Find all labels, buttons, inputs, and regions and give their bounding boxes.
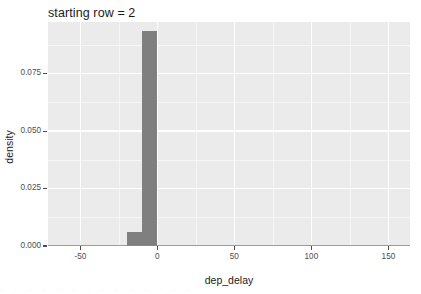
gridline-minor-vertical <box>119 22 120 246</box>
x-tick-mark <box>157 246 158 250</box>
y-tick-label: 0.050 <box>1 126 41 135</box>
histogram-bar <box>127 232 142 246</box>
chart-title: starting row = 2 <box>48 6 135 20</box>
gridline-major-horizontal <box>48 188 410 190</box>
gridline-major-horizontal <box>48 130 410 132</box>
y-tick-mark <box>43 73 47 74</box>
gridline-minor-vertical <box>350 22 351 246</box>
gridline-major-vertical <box>311 22 313 246</box>
gridline-minor-horizontal <box>48 45 410 46</box>
y-axis-title-label: density <box>3 130 15 163</box>
y-tick-mark <box>43 188 47 189</box>
gridline-minor-vertical <box>273 22 274 246</box>
x-tick-label: 50 <box>214 252 254 261</box>
gridline-major-vertical <box>388 22 390 246</box>
x-tick-label: 100 <box>291 252 331 261</box>
plot-panel <box>48 22 410 246</box>
y-tick-label: 0.075 <box>1 68 41 77</box>
x-tick-label: -50 <box>60 252 100 261</box>
gridline-major-vertical <box>80 22 82 246</box>
y-tick-label: 0.025 <box>1 183 41 192</box>
x-tick-mark <box>388 246 389 250</box>
x-tick-mark <box>80 246 81 250</box>
x-tick-mark <box>311 246 312 250</box>
y-tick-mark <box>43 131 47 132</box>
gridline-major-horizontal <box>48 73 410 75</box>
gridline-major-vertical <box>234 22 236 246</box>
y-axis-title: density <box>2 0 16 294</box>
gridline-minor-horizontal <box>48 160 410 161</box>
x-tick-label: 150 <box>368 252 408 261</box>
axis-baseline <box>48 245 410 246</box>
y-tick-mark <box>43 245 47 246</box>
histogram-bar <box>142 31 157 246</box>
chart-container: starting row = 2 density 0.0000.0250.050… <box>0 0 421 294</box>
gridline-minor-horizontal <box>48 102 410 103</box>
x-tick-label: 0 <box>137 252 177 261</box>
x-tick-mark <box>234 246 235 250</box>
gridline-minor-vertical <box>196 22 197 246</box>
y-tick-label: 0.000 <box>1 241 41 250</box>
bottom-cutoff-artifact: . . . . . . . . . . . . . . <box>0 284 421 294</box>
gridline-minor-horizontal <box>48 217 410 218</box>
